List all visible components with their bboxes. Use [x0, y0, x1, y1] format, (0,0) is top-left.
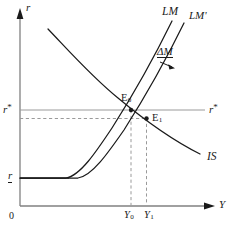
equilibrium-e1-subscript: 1 [158, 116, 162, 124]
delta-m-label: ΔM [157, 46, 173, 58]
axes-group [17, 8, 215, 209]
reference-lines-group [20, 110, 205, 205]
equilibrium-e1-label: E1 [152, 113, 162, 124]
lm-curve [20, 21, 172, 178]
r-star-line-label: r* [209, 103, 218, 115]
is-curve-label: IS [207, 151, 217, 163]
output-y0-label: Y0 [124, 210, 134, 221]
equilibrium-point-e0-marker [129, 108, 133, 112]
equilibrium-point-e1-marker [144, 116, 148, 120]
x-axis-arrowhead [204, 203, 215, 210]
curves-group [20, 21, 200, 178]
equilibrium-e0-subscript: 0 [127, 96, 131, 104]
equilibrium-e0-label: E0 [121, 93, 131, 104]
is-lm-figure: r Y 0 LM LM' IS ΔM E0 E1 r* r* r Y0 Y1 [0, 0, 236, 234]
r-star-axis-mark: * [7, 102, 12, 112]
r-star-axis-label: r* [3, 103, 12, 115]
lm-shifted-curve-label: LM' [189, 10, 207, 21]
delta-m-arrow-head [168, 64, 175, 69]
r-star-line-mark: * [213, 102, 218, 112]
output-y1-name: Y [144, 209, 150, 220]
output-y1-subscript: 1 [150, 213, 154, 221]
y-axis-label: r [26, 2, 30, 13]
is-lm-plot-svg [0, 0, 236, 234]
lm-curve-label: LM [162, 6, 178, 18]
origin-label: 0 [9, 211, 14, 221]
x-axis-label: Y [219, 199, 225, 210]
r-floor-label: r [8, 170, 12, 183]
y-axis-arrowhead [17, 8, 24, 19]
output-y0-name: Y [124, 209, 130, 220]
output-y0-subscript: 0 [130, 213, 134, 221]
output-y1-label: Y1 [144, 210, 154, 221]
